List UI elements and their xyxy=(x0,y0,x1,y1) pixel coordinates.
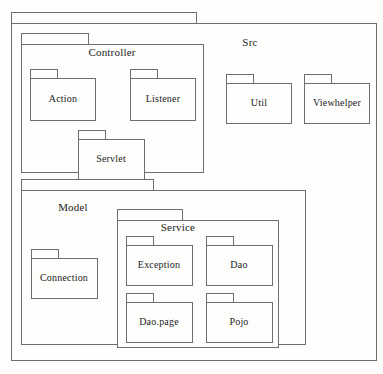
uml-package-diagram: Src Controller Action Listener Servlet xyxy=(0,0,383,374)
package-label-dao-page: Dao.page xyxy=(139,316,179,327)
package-tab-pojo xyxy=(206,293,234,302)
package-service[interactable]: Service Exception Dao Dao.page xyxy=(117,209,279,348)
package-model[interactable]: Model Connection Service Exception xyxy=(21,179,306,345)
package-tab-util xyxy=(226,74,254,83)
package-label-action: Action xyxy=(49,93,77,104)
package-tab-src xyxy=(11,12,197,23)
package-tab-listener xyxy=(130,69,158,78)
package-tab-controller xyxy=(21,33,89,44)
package-label-controller: Controller xyxy=(88,46,135,58)
package-label-servlet: Servlet xyxy=(96,153,126,164)
package-label-model: Model xyxy=(58,201,88,213)
package-tab-connection xyxy=(31,249,59,258)
package-tab-exception xyxy=(126,236,154,245)
package-label-util: Util xyxy=(251,97,267,108)
package-tab-action xyxy=(30,69,58,78)
package-label-src: Src xyxy=(242,36,257,48)
package-tab-dao-page xyxy=(126,293,154,302)
package-tab-viewhelper xyxy=(304,74,332,83)
package-src[interactable]: Src Controller Action Listener Servlet xyxy=(11,12,377,361)
package-label-pojo: Pojo xyxy=(229,316,248,327)
package-tab-service xyxy=(117,209,183,220)
package-tab-servlet xyxy=(78,130,106,139)
package-label-dao: Dao xyxy=(230,259,247,270)
package-label-connection: Connection xyxy=(40,272,88,283)
package-label-exception: Exception xyxy=(138,259,180,270)
package-tab-model xyxy=(21,179,154,190)
package-controller[interactable]: Controller Action Listener Servlet xyxy=(21,33,204,173)
package-label-listener: Listener xyxy=(146,93,180,104)
package-tab-dao xyxy=(206,236,234,245)
package-label-viewhelper: Viewhelper xyxy=(313,97,361,108)
package-label-service: Service xyxy=(161,221,195,233)
